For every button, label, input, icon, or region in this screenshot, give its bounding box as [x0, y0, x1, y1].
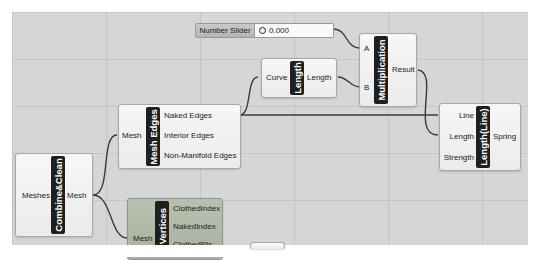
node-title-band: Mesh Edges [146, 107, 160, 166]
output-spring[interactable]: Spring [493, 132, 516, 142]
combine-clean-node[interactable]: Meshes Combine&Clean Mesh [15, 153, 93, 237]
output-clothed-index[interactable]: ClothedIndex [173, 204, 220, 214]
input-mesh[interactable]: Mesh [133, 234, 153, 244]
input-meshes[interactable]: Meshes [22, 191, 50, 201]
slider-handle-icon[interactable] [259, 27, 266, 34]
slider-value[interactable]: 0.000 [269, 24, 289, 37]
input-line[interactable]: Line [459, 111, 474, 121]
slider-label: Number Slider [196, 24, 255, 37]
node-title-band: Combine&Clean [51, 156, 65, 234]
input-length[interactable]: Length [450, 132, 474, 142]
output-non-manifold-edges[interactable]: Non-Manifold Edges [164, 151, 236, 161]
node-title-band: Multiplication [374, 36, 388, 104]
output-naked-index[interactable]: NakedIndex [173, 222, 216, 232]
output-mesh[interactable]: Mesh [67, 191, 87, 201]
input-mesh[interactable]: Mesh [122, 131, 142, 141]
input-b[interactable]: B [364, 83, 369, 93]
node-title-band: Length [290, 61, 304, 95]
output-result[interactable]: Result [392, 65, 415, 75]
length-line-node[interactable]: Line Length Strength Length(Line) Spring [439, 103, 521, 171]
node-title-band: Length(Line) [476, 106, 490, 168]
multiplication-node[interactable]: A B Multiplication Result [359, 33, 417, 107]
output-naked-edges[interactable]: Naked Edges [164, 111, 212, 121]
number-slider[interactable]: Number Slider 0.000 [195, 23, 334, 38]
partial-node[interactable] [250, 242, 285, 249]
output-interior-edges[interactable]: Interior Edges [164, 131, 214, 141]
input-strength[interactable]: Strength [444, 153, 474, 163]
input-a[interactable]: A [364, 44, 369, 54]
length-node[interactable]: Curve Length Length [261, 58, 337, 98]
input-curve[interactable]: Curve [266, 73, 287, 83]
output-length[interactable]: Length [307, 73, 331, 83]
mesh-edges-node[interactable]: Mesh Mesh Edges Naked Edges Interior Edg… [118, 104, 241, 169]
